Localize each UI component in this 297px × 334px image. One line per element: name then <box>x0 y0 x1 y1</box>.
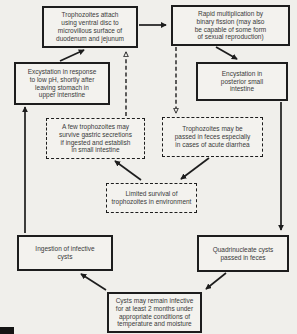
arrow-excystation-to-attach <box>60 50 84 61</box>
arrow-quadrinucleate-to-cysts-infective <box>206 273 226 289</box>
node-encystation: Encystation in posterior small intestine <box>196 62 288 101</box>
node-limited-survival: Limited survival of trophozoites in envi… <box>106 183 197 213</box>
node-trophozoites-passed-feces: Trophozoites may be passed in feces espe… <box>162 117 263 157</box>
node-cysts-remain-infective: Cysts may remain infective for at least … <box>107 292 202 333</box>
node-rapid-multiplication: Rapid multiplication by binary fission (… <box>171 5 290 46</box>
node-quadrinucleate-cysts: Quadrinucleate cysts passed in feces <box>197 235 289 272</box>
node-few-trophozoites-survive: A few trophozoites may survive gastric s… <box>46 118 145 159</box>
flowchart-diagram: Trophozoites attach using ventral disc t… <box>0 0 297 334</box>
flow-arrows <box>0 0 297 334</box>
node-excystation: Excystation in response to low pH, short… <box>14 62 110 105</box>
arrow-passed-to-limited-survival <box>181 158 209 179</box>
scan-artifact-bar <box>0 327 14 334</box>
arrow-multiplication-to-encystation <box>216 47 237 59</box>
arrow-limited-survival-to-few <box>115 161 141 180</box>
arrow-cysts-infective-to-ingestion <box>81 274 106 290</box>
node-ingestion-infective-cysts: Ingestion of infective cysts <box>17 235 113 271</box>
node-trophozoites-attach: Trophozoites attach using ventral disc t… <box>42 6 138 48</box>
